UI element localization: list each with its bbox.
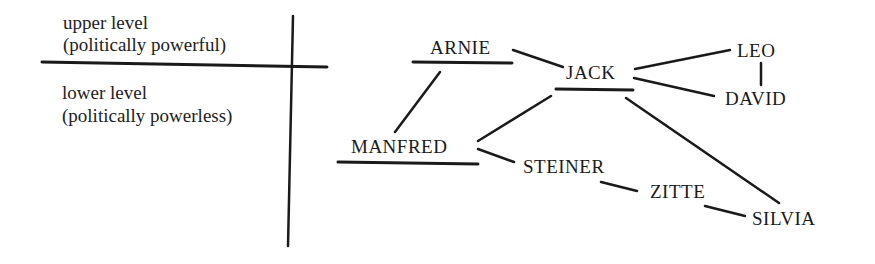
edge-jack-david — [634, 78, 714, 96]
level-divider-vertical — [288, 16, 293, 246]
node-jack: JACK — [566, 62, 616, 84]
node-zitte: ZITTE — [650, 181, 705, 203]
edge-arnie-jack — [513, 50, 563, 67]
node-leo: LEO — [737, 40, 775, 62]
power-structure-diagram: upper level (politically powerful) lower… — [0, 0, 875, 264]
edge-manfred-steiner — [478, 149, 514, 162]
edge-jack-leo — [635, 50, 730, 69]
upper-level-sublabel: (politically powerful) — [63, 33, 226, 56]
edge-arnie-manfred — [395, 72, 440, 132]
edge-zitte-silvia — [705, 206, 745, 216]
edge-jack-manfred — [478, 96, 551, 141]
manfred-underline — [338, 162, 478, 164]
lower-level-label: lower level — [62, 81, 147, 104]
node-steiner: STEINER — [523, 156, 605, 178]
node-david: DAVID — [725, 88, 786, 110]
node-arnie: ARNIE — [430, 37, 491, 59]
level-divider-horizontal — [42, 62, 327, 67]
edge-steiner-zitte — [601, 182, 637, 191]
jack-underline — [556, 89, 633, 90]
node-silvia: SILVIA — [752, 208, 816, 230]
upper-level-label: upper level — [63, 11, 148, 34]
arnie-underline — [413, 62, 512, 63]
node-manfred: MANFRED — [351, 136, 447, 158]
lower-level-sublabel: (politically powerless) — [62, 104, 232, 127]
